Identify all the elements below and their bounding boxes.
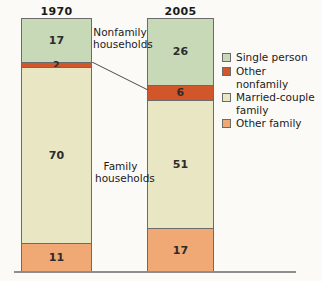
segment-value: 17 — [173, 245, 189, 256]
segment-value: 17 — [49, 35, 65, 46]
legend-swatch-icon — [222, 119, 231, 128]
legend-label: Other nonfamily — [236, 65, 320, 90]
segment-value: 6 — [177, 87, 185, 98]
segment-value: 51 — [173, 159, 189, 170]
legend-swatch-icon — [222, 67, 231, 76]
legend-item-other-family[interactable]: Other family — [222, 117, 320, 130]
segment-value: 70 — [49, 150, 65, 161]
segment-2005-other-nonfamily[interactable]: 6 — [148, 85, 213, 100]
legend-label: Other family — [236, 117, 302, 130]
segment-1970-married-couple-family[interactable]: 70 — [22, 67, 91, 243]
annotation-family-households: Family households — [95, 160, 146, 185]
legend-item-married-couple-family[interactable]: Married-couple family — [222, 91, 320, 116]
annotation-nonfamily-households: Nonfamily households — [93, 26, 147, 51]
segment-2005-single-person[interactable]: 26 — [148, 19, 213, 85]
year-label-2005: 2005 — [147, 5, 214, 18]
legend-item-single-person[interactable]: Single person — [222, 51, 320, 64]
plot-area: 1970 2005 17 2 70 11 26 6 — [0, 0, 322, 281]
legend-swatch-icon — [222, 53, 231, 62]
bar-2005[interactable]: 26 6 51 17 — [147, 18, 214, 272]
segment-2005-other-family[interactable]: 17 — [148, 228, 213, 271]
segment-1970-other-family[interactable]: 11 — [22, 243, 91, 271]
segment-value: 11 — [49, 252, 65, 263]
legend-swatch-icon — [222, 93, 231, 102]
baseline-axis — [14, 271, 296, 273]
stacked-bar-chart: 1970 2005 17 2 70 11 26 6 — [0, 0, 322, 281]
legend-label: Married-couple family — [236, 91, 315, 116]
segment-value: 26 — [173, 46, 189, 57]
segment-2005-married-couple-family[interactable]: 51 — [148, 100, 213, 229]
legend-item-other-nonfamily[interactable]: Other nonfamily — [222, 65, 320, 90]
leader-line-icon — [92, 62, 148, 90]
legend: Single person Other nonfamily Married-co… — [222, 51, 320, 131]
bar-1970[interactable]: 17 2 70 11 — [21, 18, 92, 272]
legend-label: Single person — [236, 51, 308, 64]
year-label-1970: 1970 — [21, 5, 92, 18]
segment-1970-single-person[interactable]: 17 — [22, 19, 91, 62]
